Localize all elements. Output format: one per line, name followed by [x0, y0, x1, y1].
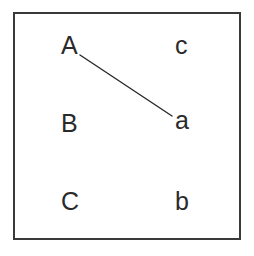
node-label-A[interactable]: A: [61, 33, 78, 58]
node-label-b[interactable]: b: [175, 189, 189, 214]
node-label-B[interactable]: B: [61, 111, 78, 136]
node-label-c[interactable]: c: [175, 33, 188, 58]
diagram-canvas: A B C c a b: [0, 0, 254, 256]
diagram-frame-border: [13, 12, 241, 240]
node-label-C[interactable]: C: [61, 189, 79, 214]
node-label-a[interactable]: a: [175, 108, 189, 133]
